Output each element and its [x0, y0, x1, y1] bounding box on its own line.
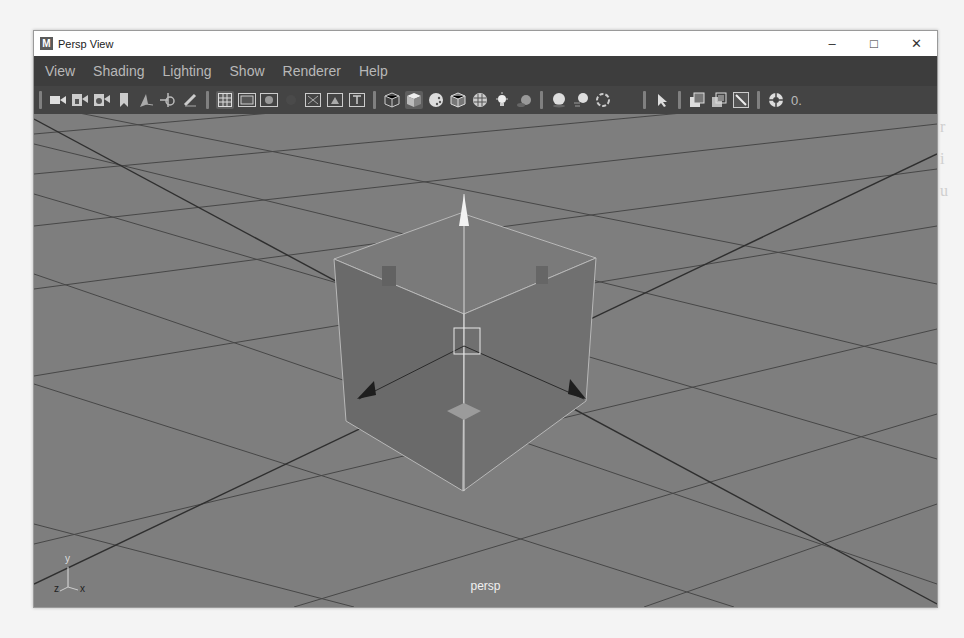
shadows-icon[interactable]: [515, 91, 533, 109]
maya-app-icon: M: [40, 37, 53, 50]
default-material-icon[interactable]: [427, 91, 445, 109]
xray-joints-icon[interactable]: [732, 91, 750, 109]
use-all-lights-icon[interactable]: [493, 91, 511, 109]
screen-space-ao-icon[interactable]: [550, 91, 568, 109]
menu-renderer[interactable]: Renderer: [283, 63, 341, 79]
select-camera-icon[interactable]: [49, 91, 67, 109]
safe-title-icon[interactable]: [348, 91, 366, 109]
field-chart-icon[interactable]: [304, 91, 322, 109]
menu-help[interactable]: Help: [359, 63, 388, 79]
isolate-select-icon[interactable]: [688, 91, 706, 109]
close-button[interactable]: ✕: [895, 31, 937, 56]
resolution-gate-icon[interactable]: [260, 91, 278, 109]
lock-camera-icon[interactable]: [71, 91, 89, 109]
smooth-shade-icon[interactable]: [405, 91, 423, 109]
wireframe-on-shaded-icon[interactable]: [449, 91, 467, 109]
anti-aliasing-icon[interactable]: [594, 91, 612, 109]
menu-shading[interactable]: Shading: [93, 63, 144, 79]
select-icon[interactable]: [653, 91, 671, 109]
exposure-icon[interactable]: [767, 91, 785, 109]
background-page-text: [0, 614, 4, 634]
menu-bar: View Shading Lighting Show Renderer Help: [34, 56, 937, 86]
axis-label-y: y: [65, 553, 70, 564]
maximize-button[interactable]: □: [853, 31, 895, 56]
cube-mesh: [334, 213, 596, 491]
minimize-button[interactable]: –: [811, 31, 853, 56]
film-gate-icon[interactable]: [238, 91, 256, 109]
exposure-value-field[interactable]: 0.: [791, 93, 802, 108]
bookmarks-icon[interactable]: [115, 91, 133, 109]
scene-grid: [34, 114, 937, 607]
background-page-text: r: [940, 118, 945, 136]
persp-view-window: M Persp View – □ ✕ View Shading Lighting…: [33, 30, 938, 608]
toolbar-separator[interactable]: [540, 91, 543, 109]
toolbar-separator[interactable]: [678, 91, 681, 109]
background-page-text: i: [940, 150, 944, 168]
textured-icon[interactable]: [471, 91, 489, 109]
background-page-text: u: [940, 182, 948, 200]
toolbar-separator[interactable]: [643, 91, 646, 109]
window-controls: – □ ✕: [811, 31, 937, 56]
2d-pan-zoom-icon[interactable]: [159, 91, 177, 109]
toolbar-separator[interactable]: [373, 91, 376, 109]
xray-icon[interactable]: [710, 91, 728, 109]
grease-pencil-icon[interactable]: [181, 91, 199, 109]
grid-icon[interactable]: [216, 91, 234, 109]
toolbar-separator[interactable]: [39, 91, 42, 109]
title-bar[interactable]: M Persp View – □ ✕: [34, 31, 937, 56]
3d-viewport[interactable]: y z x persp: [34, 114, 937, 607]
safe-action-icon[interactable]: [326, 91, 344, 109]
toolbar-separator[interactable]: [206, 91, 209, 109]
window-title: Persp View: [58, 38, 113, 50]
gate-mask-icon[interactable]: [282, 91, 300, 109]
motion-blur-icon[interactable]: [572, 91, 590, 109]
menu-view[interactable]: View: [45, 63, 75, 79]
panel-toolbar: 0.: [34, 86, 937, 114]
camera-name-label: persp: [34, 579, 937, 593]
toolbar-separator[interactable]: [757, 91, 760, 109]
wireframe-icon[interactable]: [383, 91, 401, 109]
image-plane-icon[interactable]: [137, 91, 155, 109]
camera-attributes-icon[interactable]: [93, 91, 111, 109]
menu-lighting[interactable]: Lighting: [162, 63, 211, 79]
menu-show[interactable]: Show: [230, 63, 265, 79]
